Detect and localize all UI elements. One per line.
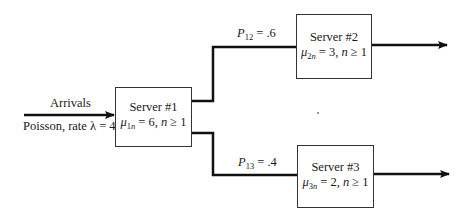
server-3-title: Server #3 — [311, 160, 359, 175]
server-1-box: Server #1 μ1n = 6, n ≥ 1 — [115, 87, 192, 147]
server-2-rate: μ2n = 3, n ≥ 1 — [301, 45, 367, 64]
server-1-title: Server #1 — [129, 100, 177, 115]
queueing-network-diagram: Arrivals Poisson, rate λ = 4 Server #1 μ… — [0, 0, 473, 222]
server-2-box: Server #2 μ2n = 3, n ≥ 1 — [296, 14, 372, 79]
arrival-rate-label: Poisson, rate λ = 4 — [23, 119, 116, 134]
server-3-rate: μ3n = 2, n ≥ 1 — [302, 175, 368, 194]
p12-label: P12 = .6 — [237, 26, 276, 42]
route-1-to-2 — [192, 47, 296, 101]
p13-label: P13 = .4 — [238, 155, 277, 171]
arrivals-label: Arrivals — [50, 96, 91, 111]
server-3-box: Server #3 μ3n = 2, n ≥ 1 — [297, 145, 374, 208]
scan-artifact-dot — [317, 112, 319, 114]
server-1-rate: μ1n = 6, n ≥ 1 — [120, 115, 186, 134]
server-2-title: Server #2 — [310, 30, 358, 45]
